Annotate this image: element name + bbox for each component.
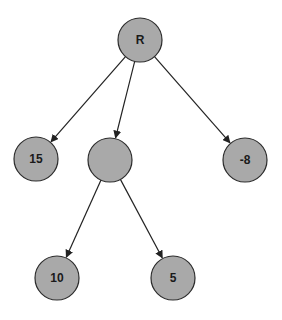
edge-arrow-nmid-to-n5	[120, 179, 162, 257]
nodes-group: R15-8105	[14, 18, 267, 300]
tree-node-n5: 5	[151, 256, 195, 300]
node-circle	[88, 138, 132, 182]
edge-arrow-root-to-nm8	[155, 57, 230, 143]
node-label: R	[136, 33, 145, 47]
edges-group	[51, 57, 230, 258]
node-label: 5	[170, 271, 177, 285]
node-label: 10	[50, 271, 64, 285]
tree-node-n10: 10	[35, 256, 79, 300]
tree-diagram: R15-8105	[0, 0, 282, 320]
edge-arrow-root-to-nmid	[116, 61, 135, 137]
edge-arrow-root-to-n15	[51, 57, 125, 142]
edge-arrow-nmid-to-n10	[66, 180, 101, 257]
node-label: -8	[240, 153, 251, 167]
tree-node-nm8: -8	[223, 138, 267, 182]
node-label: 15	[29, 152, 43, 166]
tree-node-nmid	[88, 138, 132, 182]
tree-node-n15: 15	[14, 137, 58, 181]
tree-node-root: R	[118, 18, 162, 62]
